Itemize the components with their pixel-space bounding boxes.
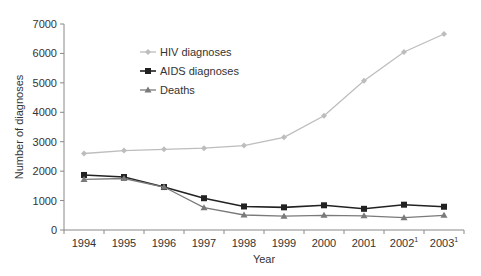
series-layer [81, 31, 448, 220]
x-tick-label: 2001 [352, 237, 376, 249]
x-tick-label: 1999 [272, 237, 296, 249]
diamond-marker-icon [145, 49, 151, 55]
series-line [84, 175, 444, 209]
legend-label: AIDS diagnoses [160, 65, 239, 77]
square-marker-icon [145, 68, 151, 74]
square-marker-icon [281, 204, 287, 210]
diamond-marker-icon [121, 148, 127, 154]
y-tick-label: 3000 [33, 136, 57, 148]
y-tick-label: 5000 [33, 77, 57, 89]
square-marker-icon [241, 203, 247, 209]
x-tick-label: 1996 [152, 237, 176, 249]
x-tick-label: 1995 [112, 237, 136, 249]
triangle-marker-icon [201, 204, 208, 210]
legend-label: HIV diagnoses [160, 46, 232, 58]
series-deaths [81, 175, 448, 220]
square-marker-icon [441, 204, 447, 210]
diamond-marker-icon [281, 134, 287, 140]
series-line [84, 179, 444, 218]
line-chart: 01000200030004000500060007000 1994199519… [0, 0, 481, 276]
y-tick-label: 1000 [33, 195, 57, 207]
x-tick-label: 2000 [312, 237, 336, 249]
square-marker-icon [201, 195, 207, 201]
x-tick-label: 20021 [390, 236, 418, 249]
y-axis-title: Number of diagnoses [13, 74, 25, 179]
y-tick-label: 4000 [33, 106, 57, 118]
series-line [84, 34, 444, 153]
x-tick-label: 1998 [232, 237, 256, 249]
y-tick-label: 2000 [33, 165, 57, 177]
legend-item: Deaths [140, 84, 195, 96]
x-tick-label: 20031 [430, 236, 458, 249]
diamond-marker-icon [441, 31, 447, 37]
legend-item: AIDS diagnoses [140, 65, 239, 77]
legend: HIV diagnosesAIDS diagnosesDeaths [140, 46, 239, 96]
legend-label: Deaths [160, 84, 195, 96]
diamond-marker-icon [81, 150, 87, 156]
y-tick-label: 0 [51, 224, 57, 236]
series-aids-diagnoses [81, 172, 447, 212]
square-marker-icon [321, 202, 327, 208]
x-axis-title: Year [253, 253, 276, 265]
y-tick-label: 7000 [33, 18, 57, 30]
y-tick-label: 6000 [33, 47, 57, 59]
y-axis: 01000200030004000500060007000 [33, 18, 64, 236]
diamond-marker-icon [161, 146, 167, 152]
x-tick-label: 1994 [72, 237, 96, 249]
diamond-marker-icon [241, 143, 247, 149]
square-marker-icon [401, 202, 407, 208]
x-tick-label: 1997 [192, 237, 216, 249]
square-marker-icon [361, 206, 367, 212]
x-axis: 1994199519961997199819992000200120021200… [64, 230, 464, 249]
series-hiv-diagnoses [81, 31, 447, 156]
legend-item: HIV diagnoses [140, 46, 232, 58]
diamond-marker-icon [201, 145, 207, 151]
